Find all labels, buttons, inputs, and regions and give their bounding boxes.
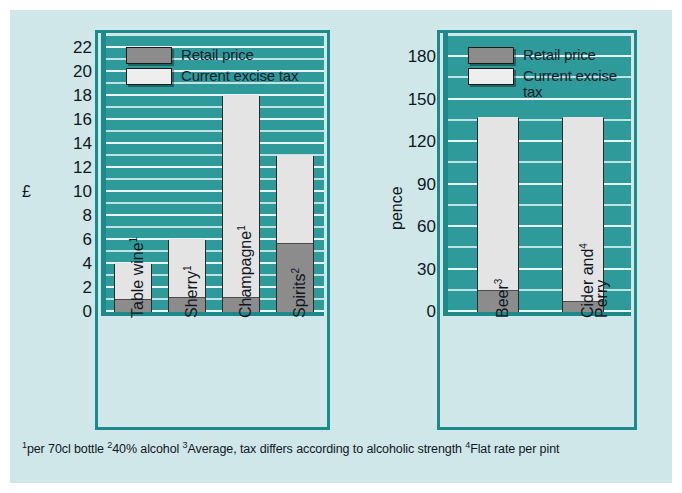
legend-label-line2: tax [523,84,617,100]
category-footnote-marker: 1 [236,225,247,231]
footnotes: 1per 70cl bottle 240% alcohol 3Average, … [22,440,662,456]
legend-item[interactable]: Retail price [468,47,617,64]
retail-price-swatch-icon [468,47,514,64]
category-label: Beer3 [490,279,511,318]
category-footnote-marker: 1 [182,265,193,271]
y-tick-label: 150 [408,91,436,108]
category-footnote-marker: 4 [578,243,589,249]
legend-item[interactable]: Current excise tax [126,68,298,85]
y-tick-label: 14 [73,135,92,152]
right-y-tick-labels: 1801501209060300 [390,36,436,312]
y-tick-label: 60 [417,218,436,235]
y-tick-label: 0 [427,303,436,320]
right-y-axis-line [443,33,448,315]
category-label-line2: Perry [593,280,610,318]
y-tick-label: 18 [73,87,92,104]
footnote-text-1: per 70cl bottle [27,442,107,456]
y-tick-label: 0 [83,303,92,320]
category-label-text: Table wine [129,242,146,318]
y-tick-label: 20 [73,63,92,80]
left-y-tick-labels: 2220181614121086420 [40,36,92,312]
category-label-text: Champagne [237,231,254,318]
y-tick-label: 120 [408,133,436,150]
y-tick-label: 2 [83,279,92,296]
y-tick-label: 90 [417,176,436,193]
category-label: Table wine1 [125,237,146,318]
category-label: Spirits2 [287,268,308,318]
y-tick-label: 12 [73,159,92,176]
category-label: Sherry1 [179,265,200,318]
bar-segment-excise-tax [277,155,313,243]
footnote-text-4: Flat rate per pint [470,442,559,456]
right-legend: Retail priceCurrent excisetax [468,47,617,104]
category-label-text: Spirits [291,274,308,318]
footnote-text-3: Average, tax differs according to alcoho… [188,442,466,456]
y-tick-label: 6 [83,231,92,248]
category-label-text: Beer [494,284,511,318]
category-footnote-marker: 1 [128,237,139,243]
y-tick-label: 4 [83,255,92,272]
right-y-axis-title: pence [388,186,406,230]
y-tick-label: 30 [417,261,436,278]
excise-tax-swatch-icon [468,68,514,85]
category-label-text: Sherry [183,271,200,318]
chart-figure: 2220181614121086420 £ Retail priceCurren… [0,0,682,493]
legend-label: Retail price [181,47,254,63]
y-tick-label: 16 [73,111,92,128]
category-label: Champagne1 [233,225,254,318]
legend-label: Current excisetax [523,68,617,100]
legend-label: Current excise tax [181,68,298,84]
excise-tax-swatch-icon [126,68,172,85]
right-category-labels: Beer3Cider and4Perry [455,318,625,428]
legend-label: Retail price [523,47,596,63]
left-y-axis-title: £ [22,183,31,201]
y-tick-label: 10 [73,183,92,200]
legend-item[interactable]: Current excisetax [468,68,617,100]
y-tick-label: 22 [73,39,92,56]
bar-segment-excise-tax [478,117,518,290]
legend-item[interactable]: Retail price [126,47,298,64]
footnote-text-2: 40% alcohol [112,442,182,456]
retail-price-swatch-icon [126,47,172,64]
category-footnote-marker: 3 [493,279,504,285]
category-footnote-marker: 2 [290,268,301,274]
left-legend: Retail priceCurrent excise tax [126,47,298,89]
left-category-labels: Table wine1Sherry1Champagne1Spirits2 [106,318,322,428]
y-tick-label: 8 [83,207,92,224]
y-tick-label: 180 [408,48,436,65]
